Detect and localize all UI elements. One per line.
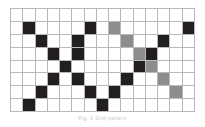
grid-cell — [109, 86, 121, 99]
grid-cell — [183, 86, 195, 99]
grid-cell — [85, 22, 97, 35]
grid-cell — [183, 73, 195, 86]
grid-cell — [121, 61, 133, 74]
grid-cell — [170, 48, 182, 61]
grid-cell — [60, 22, 72, 35]
grid-cell — [60, 99, 72, 112]
grid-cell — [97, 99, 109, 112]
grid-cell — [23, 35, 35, 48]
grid-cell — [183, 35, 195, 48]
grid-cell — [183, 48, 195, 61]
grid-cell — [134, 99, 146, 112]
grid-cell — [36, 73, 48, 86]
grid-cell — [97, 48, 109, 61]
grid-cell — [85, 99, 97, 112]
grid-cell — [60, 9, 72, 22]
grid-cell — [85, 9, 97, 22]
grid-cell — [36, 61, 48, 74]
grid-cell — [11, 22, 23, 35]
grid-cell — [121, 99, 133, 112]
grid-cell — [146, 9, 158, 22]
grid-cell — [23, 61, 35, 74]
grid-cell — [48, 61, 60, 74]
grid-cell — [158, 99, 170, 112]
grid-cell — [11, 9, 23, 22]
grid-cell — [23, 9, 35, 22]
grid-cell — [72, 22, 84, 35]
grid-cell — [60, 86, 72, 99]
cell-grid — [10, 8, 195, 112]
grid-cell — [97, 22, 109, 35]
grid-cell — [48, 99, 60, 112]
grid-cell — [48, 48, 60, 61]
grid-cell — [48, 73, 60, 86]
grid-cell — [11, 61, 23, 74]
grid-cell — [60, 35, 72, 48]
grid-cell — [72, 35, 84, 48]
grid-cell — [109, 9, 121, 22]
grid-cell — [36, 9, 48, 22]
grid-cell — [170, 61, 182, 74]
grid-cell — [85, 61, 97, 74]
grid-cell — [109, 22, 121, 35]
grid-cell — [183, 22, 195, 35]
grid-cell — [11, 73, 23, 86]
grid-cell — [158, 48, 170, 61]
grid-cell — [36, 22, 48, 35]
grid-cell — [158, 35, 170, 48]
grid-cell — [146, 86, 158, 99]
grid-cell — [121, 35, 133, 48]
grid-cell — [11, 99, 23, 112]
grid-cell — [158, 86, 170, 99]
grid-cell — [36, 86, 48, 99]
grid-cell — [97, 61, 109, 74]
grid-cell — [146, 99, 158, 112]
grid-cell — [85, 73, 97, 86]
grid-cell — [134, 22, 146, 35]
grid-cell — [97, 86, 109, 99]
grid-cell — [72, 9, 84, 22]
grid-cell — [48, 35, 60, 48]
grid-cell — [158, 73, 170, 86]
grid-cell — [48, 86, 60, 99]
grid-cell — [183, 61, 195, 74]
grid-cell — [72, 73, 84, 86]
grid-cell — [134, 9, 146, 22]
grid-cell — [11, 48, 23, 61]
grid-cell — [170, 9, 182, 22]
grid-cell — [23, 86, 35, 99]
grid-cell — [109, 61, 121, 74]
grid-cell — [60, 73, 72, 86]
grid-cell — [11, 35, 23, 48]
grid-cell — [72, 61, 84, 74]
grid-cell — [48, 22, 60, 35]
grid-cell — [11, 86, 23, 99]
grid-cell — [158, 61, 170, 74]
grid-cell — [97, 35, 109, 48]
grid-cell — [97, 73, 109, 86]
grid-cell — [170, 22, 182, 35]
grid-cell — [134, 73, 146, 86]
grid-cell — [158, 9, 170, 22]
grid-cell — [134, 61, 146, 74]
grid-cell — [121, 22, 133, 35]
grid-cell — [36, 99, 48, 112]
grid-cell — [121, 73, 133, 86]
grid-cell — [23, 73, 35, 86]
grid-cell — [134, 48, 146, 61]
grid-cell — [170, 99, 182, 112]
grid-cell — [146, 22, 158, 35]
grid-cell — [23, 22, 35, 35]
grid-cell — [109, 73, 121, 86]
grid-cell — [170, 35, 182, 48]
grid-cell — [85, 35, 97, 48]
grid-cell — [146, 61, 158, 74]
grid-cell — [109, 48, 121, 61]
grid-cell — [72, 99, 84, 112]
grid-cell — [36, 35, 48, 48]
grid-cell — [146, 35, 158, 48]
grid-cell — [158, 22, 170, 35]
grid-cell — [85, 86, 97, 99]
grid-cell — [72, 48, 84, 61]
grid-cell — [48, 9, 60, 22]
